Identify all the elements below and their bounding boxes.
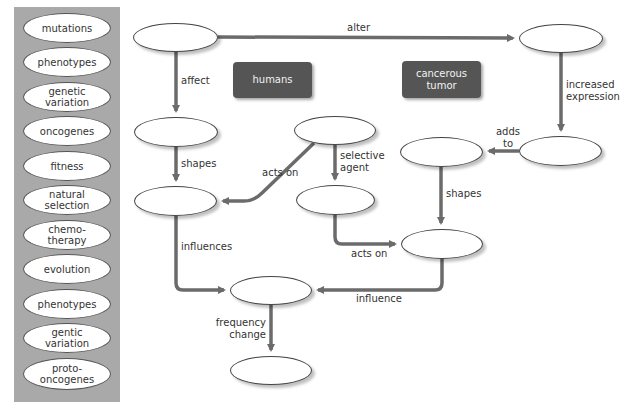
label-alter: alter — [347, 22, 370, 34]
label-selective-agent: selective agent — [340, 150, 385, 174]
label-shapes-right: shapes — [446, 188, 481, 200]
node-top-left[interactable] — [133, 23, 218, 52]
label-increased-expression: increased expression — [566, 79, 620, 103]
term-proto-oncogenes[interactable]: proto- oncogenes — [23, 358, 111, 390]
arrow-acts-on-bottom — [335, 215, 395, 244]
arrow-alter — [218, 37, 513, 38]
label-influences: influences — [181, 241, 232, 253]
node-center-lower[interactable] — [296, 185, 375, 215]
term-evolution[interactable]: evolution — [23, 254, 111, 284]
node-bottom-center[interactable] — [230, 276, 312, 305]
term-phenotypes-2[interactable]: phenotypes — [23, 289, 111, 319]
node-right-lower[interactable] — [401, 229, 483, 259]
node-top-right[interactable] — [519, 24, 603, 53]
term-oncogenes[interactable]: oncogenes — [23, 116, 111, 146]
node-far-right-middle[interactable] — [519, 136, 602, 166]
term-phenotypes[interactable]: phenotypes — [23, 47, 111, 77]
label-acts-on-diagonal: acts on — [262, 167, 298, 179]
term-gentic-variation[interactable]: gentic variation — [23, 323, 111, 353]
arrow-influence — [318, 259, 442, 290]
label-affect: affect — [181, 75, 210, 87]
node-left-upper[interactable] — [134, 117, 218, 147]
arrow-influences — [176, 216, 224, 290]
label-adds-to: adds to — [494, 126, 522, 150]
term-mutations[interactable]: mutations — [23, 13, 111, 43]
context-box-cancerous-tumor: cancerous tumor — [402, 61, 481, 98]
node-center-upper[interactable] — [294, 116, 376, 145]
node-right-middle[interactable] — [400, 137, 483, 167]
term-fitness[interactable]: fitness — [23, 151, 111, 181]
term-chemotherapy[interactable]: chemo- therapy — [23, 220, 111, 250]
label-influence: influence — [356, 293, 402, 305]
context-box-humans: humans — [233, 62, 312, 98]
term-natural-selection[interactable]: natural selection — [23, 185, 111, 215]
node-left-lower[interactable] — [134, 186, 217, 216]
term-bank-panel: mutations phenotypes genetic variation o… — [14, 7, 120, 402]
label-acts-on-bottom: acts on — [351, 248, 387, 260]
term-genetic-variation[interactable]: genetic variation — [23, 82, 111, 112]
node-bottom[interactable] — [230, 356, 312, 385]
concept-map: mutations phenotypes genetic variation o… — [0, 0, 628, 417]
label-frequency-change: frequency change — [212, 317, 266, 341]
label-shapes-left: shapes — [181, 158, 216, 170]
